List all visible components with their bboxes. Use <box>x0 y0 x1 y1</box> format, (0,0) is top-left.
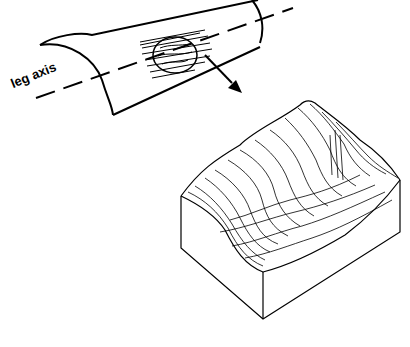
sample-patch <box>140 30 212 78</box>
arrow <box>205 55 242 93</box>
diagram-canvas <box>0 0 410 347</box>
leg-axis-line <box>36 8 293 98</box>
surface-block <box>181 101 400 319</box>
